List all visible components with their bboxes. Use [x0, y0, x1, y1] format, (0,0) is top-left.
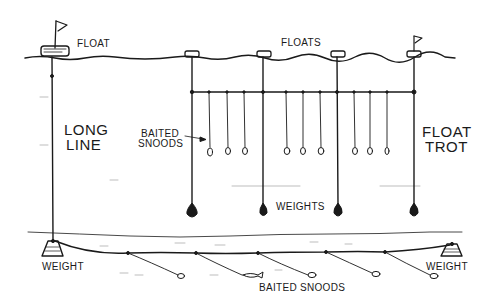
weight-icon — [410, 203, 418, 216]
fish-bait-icon — [243, 272, 263, 278]
float-trot-label: FLOAT TROT — [422, 124, 472, 154]
baited-snoods-trot-line2: SNOODS — [138, 139, 183, 149]
long-line-groundline — [55, 241, 450, 254]
weight-left-label: WEIGHT — [42, 262, 84, 272]
weight-block-left-icon — [42, 239, 63, 256]
trot-snoods — [208, 91, 390, 156]
weight-block-right-icon — [441, 242, 462, 256]
seabed-line — [28, 232, 462, 237]
weight-icon — [187, 203, 197, 217]
float-label: FLOAT — [77, 39, 110, 49]
baited-snoods-bottom-label: BAITED SNOODS — [259, 283, 345, 293]
long-line-label: LONG LINE — [64, 122, 109, 152]
long-line-downline — [52, 57, 53, 240]
fishing-rig-diagram: FLOAT FLOATS LONG LINE BAITED SNOODS FLO… — [0, 0, 492, 308]
trot-float-3-icon — [331, 51, 345, 57]
long-line-snoods — [127, 251, 439, 279]
pointer-arrow-icon — [185, 136, 206, 142]
float-trot-label-line1: FLOAT — [422, 124, 472, 139]
weight-icon — [334, 203, 342, 216]
weight-right-label: WEIGHT — [426, 262, 468, 272]
flag-icon — [414, 36, 422, 51]
water-surface-line — [25, 52, 455, 62]
flag-icon — [55, 21, 67, 48]
weight-icon — [260, 203, 267, 216]
weights-label: WEIGHTS — [276, 202, 325, 212]
long-line-label-line1: LONG — [64, 122, 109, 137]
baited-snoods-trot-label: BAITED SNOODS — [138, 129, 183, 149]
floats-label: FLOATS — [281, 38, 321, 48]
float-trot-rig — [185, 36, 422, 217]
float-trot-label-line2: TROT — [422, 139, 472, 154]
long-line-label-line2: LINE — [64, 137, 109, 152]
